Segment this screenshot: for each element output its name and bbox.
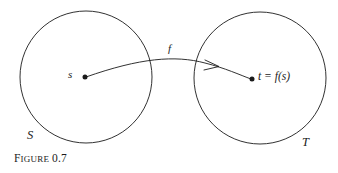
source-point-label: s bbox=[68, 69, 72, 80]
function-name-label: f bbox=[168, 43, 171, 54]
target-point-dot bbox=[250, 77, 255, 82]
figure-caption-number: 0.7 bbox=[52, 152, 67, 164]
domain-set-label: S bbox=[27, 129, 33, 142]
codomain-set-label: T bbox=[302, 136, 309, 149]
target-point-label: t = f(s) bbox=[258, 71, 290, 83]
source-point-dot bbox=[83, 75, 88, 80]
figure-caption-initial: F bbox=[14, 152, 21, 164]
figure-caption-word: IGURE bbox=[21, 154, 50, 164]
figure-container: s f t = f(s) S T FIGURE 0.7 bbox=[0, 0, 338, 173]
figure-caption: FIGURE 0.7 bbox=[14, 152, 67, 164]
mapping-arrow-curve bbox=[86, 59, 251, 79]
figure-drawing-canvas bbox=[0, 0, 338, 173]
